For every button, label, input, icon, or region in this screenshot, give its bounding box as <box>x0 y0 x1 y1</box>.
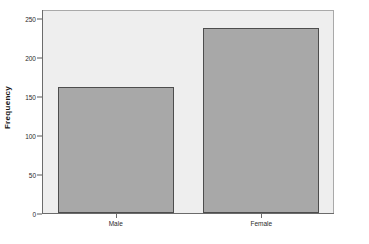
x-axis-line <box>42 213 334 214</box>
plot-area <box>43 10 334 214</box>
y-axis-tick-label: 100 <box>25 133 36 140</box>
y-axis-title-label: Frequency <box>4 85 13 128</box>
y-axis-tick-labels: 050100150200250 <box>14 0 36 244</box>
y-axis-tick-label: 50 <box>29 172 36 179</box>
bars-layer <box>43 11 333 213</box>
y-axis-tick-label: 0 <box>32 211 36 218</box>
bar-female <box>203 28 319 213</box>
y-axis-tick-label: 250 <box>25 16 36 23</box>
x-axis-tick-mark <box>116 214 117 218</box>
x-axis-tick-mark <box>261 214 262 218</box>
bar-male <box>58 87 174 213</box>
bar-chart: Frequency 050100150200250 MaleFemale <box>0 0 369 244</box>
y-axis-tick-label: 150 <box>25 94 36 101</box>
x-axis-tick-label: Male <box>109 220 123 227</box>
y-axis-tick-label: 200 <box>25 55 36 62</box>
x-axis-tick-label: Female <box>250 220 272 227</box>
